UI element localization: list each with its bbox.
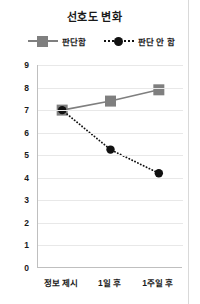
legend-item-series-a[interactable]: 판단함 — [28, 32, 86, 50]
data-point-circle[interactable] — [155, 169, 163, 177]
x-axis-tick-label: 1주일 후 — [142, 276, 173, 288]
series-line — [62, 110, 159, 173]
chart-legend: 판단함 판단 안 함 — [0, 32, 189, 50]
legend-key-circle-icon — [104, 34, 134, 48]
data-point-square[interactable] — [153, 84, 164, 95]
y-axis-tick-label: 8 — [24, 83, 29, 93]
gridline — [38, 200, 183, 201]
plot-wrapper: 0123456789 정보 제시1일 후1주일 후 — [0, 58, 189, 304]
y-axis-tick-label: 2 — [24, 218, 29, 228]
plot-area — [37, 65, 182, 268]
gridline — [38, 245, 183, 246]
y-axis-tick-label: 9 — [24, 60, 29, 70]
gridline — [38, 223, 183, 224]
gridline — [38, 155, 183, 156]
legend-label-series-b: 판단 안 함 — [138, 35, 175, 47]
x-axis-tick-label: 1일 후 — [98, 276, 121, 288]
gridline — [38, 133, 183, 134]
y-axis-tick-label: 6 — [24, 128, 29, 138]
x-axis: 정보 제시1일 후1주일 후 — [37, 272, 182, 294]
gridline — [38, 88, 183, 89]
data-point-square[interactable] — [105, 96, 116, 107]
y-axis-tick-label: 4 — [24, 173, 29, 183]
chart-title: 선호도 변화 — [0, 8, 189, 24]
series-layer — [38, 65, 183, 268]
legend-label-series-a: 판단함 — [62, 35, 86, 47]
y-axis-tick-label: 7 — [24, 105, 29, 115]
y-axis-tick-label: 1 — [24, 240, 29, 250]
legend-item-series-b[interactable]: 판단 안 함 — [104, 32, 175, 50]
y-axis-tick-label: 5 — [24, 150, 29, 160]
gridline — [38, 65, 183, 66]
chart-card: 선호도 변화 판단함 판단 안 함 0123456789 정보 제시1일 후1주… — [0, 0, 189, 304]
y-axis-tick-label: 3 — [24, 195, 29, 205]
y-axis-tick-label: 0 — [24, 263, 29, 273]
y-axis: 0123456789 — [0, 58, 34, 263]
gridline — [38, 110, 183, 111]
gridline — [38, 178, 183, 179]
data-point-circle[interactable] — [106, 145, 114, 153]
legend-key-square-icon — [28, 34, 58, 48]
x-axis-tick-label: 정보 제시 — [44, 276, 78, 288]
